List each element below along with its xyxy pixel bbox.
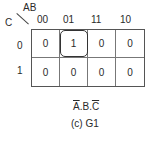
expr-term-a-bar: A [73,101,80,112]
col-header-10: 10 [120,15,131,25]
cell-c1-ab10: 0 [116,58,144,86]
col-header-01: 01 [63,15,74,25]
cell-c0-ab11: 0 [88,30,116,58]
row-header-1: 1 [17,66,23,76]
row-header-0: 0 [17,41,23,51]
col-header-11: 11 [91,15,101,25]
kmap-grid: 0 1 0 0 0 0 0 0 [31,29,145,87]
cell-c1-ab00: 0 [32,58,60,86]
col-header-00: 00 [37,15,48,25]
row-variable-label: C [5,18,12,28]
corner-divider-line [16,13,29,24]
expr-term-c-bar: C [92,101,99,112]
cell-c0-ab10: 0 [116,30,144,58]
cell-c1-ab11: 0 [88,58,116,86]
cell-c1-ab01: 0 [60,58,88,86]
column-variable-label: AB [23,3,36,13]
group-loop [60,30,88,57]
boolean-expression: A.B.C [73,101,99,112]
figure-caption: (c) G1 [71,118,99,129]
cell-c0-ab00: 0 [32,30,60,58]
